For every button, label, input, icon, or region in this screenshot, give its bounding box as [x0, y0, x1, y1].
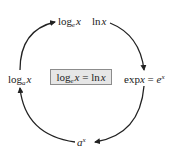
node-a-pow-x: ax — [77, 137, 86, 148]
arrow-ln-to-exp — [110, 23, 144, 70]
node-ln-x: ln x — [92, 16, 106, 27]
center-identity-box: loge x = ln x — [50, 69, 112, 85]
arrow-ax-to-loga — [20, 88, 75, 142]
arrow-loga-to-loge — [20, 22, 55, 70]
node-log-a-x: loga x — [8, 74, 31, 87]
node-exp-x: expx = ex — [124, 74, 165, 85]
arrow-exp-to-ax — [95, 86, 144, 142]
node-log-e-x: loge x — [58, 16, 81, 29]
